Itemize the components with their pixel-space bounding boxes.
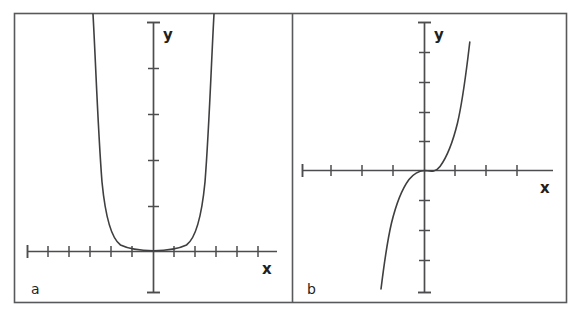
panel-b-label: b <box>307 281 316 297</box>
panel-a-label: a <box>31 281 40 297</box>
panel-b-y-axis-label: y <box>434 26 444 44</box>
two-panel-graph-figure: x y a <box>0 0 580 318</box>
panel-a-y-axis-label: y <box>163 26 173 44</box>
panel-b-x-axis-label: x <box>540 179 550 197</box>
panel-a-x-axis-label: x <box>262 260 272 278</box>
figure-outer-frame <box>15 14 567 303</box>
figure-container: x y a <box>0 0 580 318</box>
